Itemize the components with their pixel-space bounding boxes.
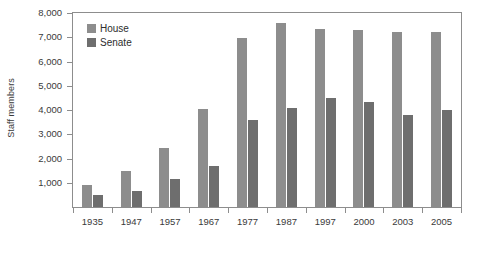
x-axis-tick-mark: [228, 208, 229, 213]
x-axis-tick-mark: [112, 208, 113, 213]
bar-senate-1935: [93, 195, 103, 207]
bar-group: [345, 13, 384, 207]
x-axis-tick-mark: [383, 208, 384, 213]
bar-senate-1957: [170, 179, 180, 207]
y-axis-tick-label: 5,000: [38, 80, 62, 91]
legend-label-house: House: [100, 23, 129, 34]
bar-house-1957: [159, 148, 169, 207]
x-axis-tick-label: 1997: [306, 216, 345, 227]
bar-senate-2005: [442, 110, 452, 207]
bar-group: [383, 13, 422, 207]
bar-house-2003: [392, 32, 402, 207]
bar-senate-1967: [209, 166, 219, 207]
bar-house-1997: [315, 29, 325, 207]
x-axis-tick-label: 1987: [267, 216, 306, 227]
x-axis-tick-label: 1957: [151, 216, 190, 227]
legend-swatch-senate-icon: [87, 38, 96, 47]
legend-item-senate: Senate: [87, 36, 132, 49]
legend-item-house: House: [87, 22, 132, 35]
y-axis-title-label: Staff members: [6, 78, 16, 138]
bar-group: [267, 13, 306, 207]
bar-group: [228, 13, 267, 207]
x-axis-tick-label: 1977: [228, 216, 267, 227]
bar-senate-2003: [403, 115, 413, 207]
x-axis-tick-mark: [73, 208, 74, 213]
bar-house-1935: [82, 185, 92, 207]
y-axis-tick-label: 4,000: [38, 104, 62, 115]
legend-label-senate: Senate: [100, 37, 132, 48]
x-axis-tick-label: 2000: [345, 216, 384, 227]
bar-house-1967: [198, 109, 208, 207]
bar-house-1947: [121, 171, 131, 207]
bar-house-1987: [276, 23, 286, 207]
x-axis-tick-label: 1947: [112, 216, 151, 227]
bar-group: [422, 13, 461, 207]
legend-swatch-house-icon: [87, 24, 96, 33]
x-axis-tick-mark: [461, 208, 462, 213]
bar-house-2000: [353, 30, 363, 207]
y-axis-tick-label: 1,000: [38, 177, 62, 188]
bar-group: [306, 13, 345, 207]
y-axis-tick-label: 3,000: [38, 128, 62, 139]
bar-senate-1987: [287, 108, 297, 207]
x-axis-tick-label: 2003: [383, 216, 422, 227]
y-axis-title: Staff members: [2, 0, 20, 215]
bar-chart: Staff members 1,0002,0003,0004,0005,0006…: [0, 0, 477, 253]
bar-senate-1997: [326, 98, 336, 207]
x-axis-tick-label: 2005: [422, 216, 461, 227]
bar-senate-2000: [364, 102, 374, 207]
x-axis-tick-label: 1967: [189, 216, 228, 227]
y-axis-tick-label: 2,000: [38, 153, 62, 164]
x-axis-tick-mark: [189, 208, 190, 213]
bar-senate-1977: [248, 120, 258, 207]
bar-group: [189, 13, 228, 207]
bar-group: [151, 13, 190, 207]
x-axis-tick-mark: [151, 208, 152, 213]
x-axis-tick-mark: [267, 208, 268, 213]
bar-house-2005: [431, 32, 441, 207]
y-axis-tick-label: 7,000: [38, 31, 62, 42]
bar-senate-1947: [132, 191, 142, 207]
x-axis-tick-label: 1935: [73, 216, 112, 227]
bar-house-1977: [237, 38, 247, 207]
x-axis-tick-mark: [422, 208, 423, 213]
y-axis-tick-label: 6,000: [38, 56, 62, 67]
x-axis-tick-mark: [345, 208, 346, 213]
x-axis-tick-mark: [306, 208, 307, 213]
y-axis-tick-label: 8,000: [38, 7, 62, 18]
legend: House Senate: [87, 22, 132, 50]
